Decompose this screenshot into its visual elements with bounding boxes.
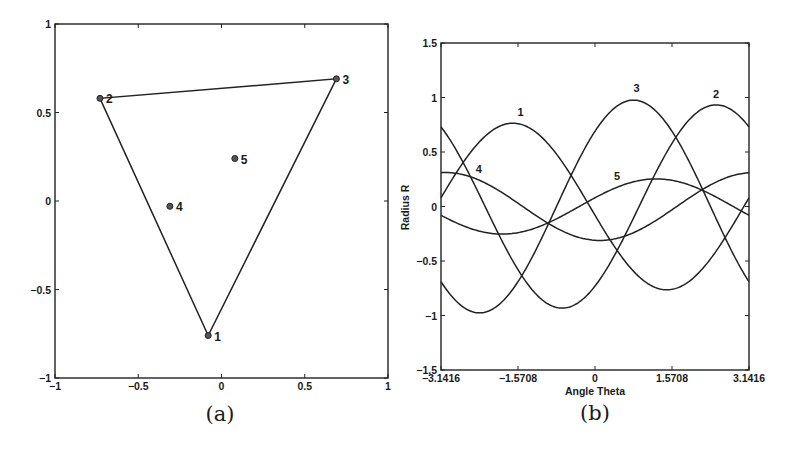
x-tick-label: 1.5708 <box>656 372 688 384</box>
curve-label-5: 5 <box>614 170 620 182</box>
y-tick-label: −0.5 <box>416 255 437 267</box>
y-tick-label: 1 <box>431 92 437 104</box>
y-tick-label: 1.5 <box>422 37 437 49</box>
x-axis-label: Angle Theta <box>565 385 625 397</box>
curve-label-3: 3 <box>634 82 640 94</box>
curve-1 <box>441 123 749 290</box>
y-tick-label: −1 <box>425 310 437 322</box>
curve-label-2: 2 <box>713 88 719 100</box>
y-tick-label: −1.5 <box>416 364 437 376</box>
x-tick-label: 0 <box>592 372 598 384</box>
figure: −1−0.500.51−1−0.500.5112345 −3.1416−1.57… <box>0 0 791 453</box>
curve-label-4: 4 <box>476 163 483 175</box>
x-tick-label: 3.1416 <box>733 372 765 384</box>
plot-frame <box>441 43 749 370</box>
plot-b-sinusoid-curves: −3.1416−1.570801.57083.1416−1.5−1−0.500.… <box>0 0 791 453</box>
curve-3 <box>441 100 749 313</box>
caption-a: (a) <box>206 402 235 426</box>
x-tick-label: −1.5708 <box>499 372 537 384</box>
curve-2 <box>441 105 749 308</box>
curve-5 <box>441 179 749 234</box>
y-tick-label: 0.5 <box>422 146 437 158</box>
curve-4 <box>441 173 749 241</box>
curve-label-1: 1 <box>517 106 523 118</box>
caption-b: (b) <box>580 401 610 425</box>
y-tick-label: 0 <box>431 201 437 213</box>
y-axis-label: Radius R <box>399 184 411 230</box>
